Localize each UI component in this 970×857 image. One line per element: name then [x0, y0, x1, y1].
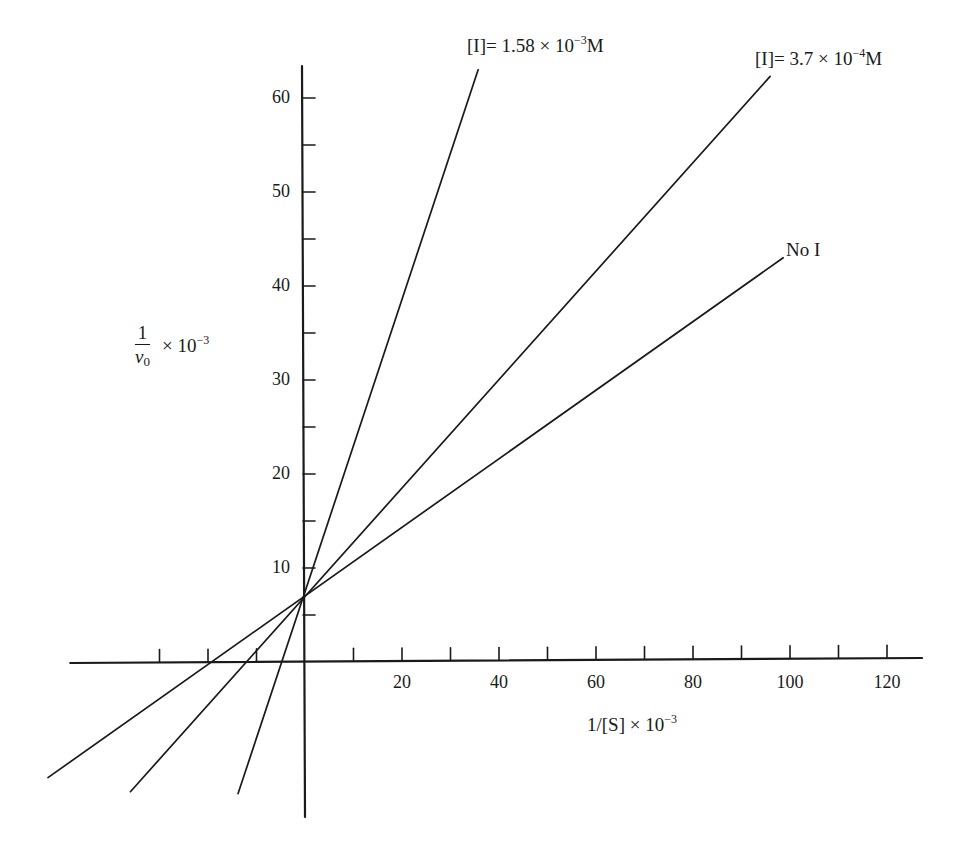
x-tick-label: 120 — [874, 673, 901, 691]
line-no-inhibitor — [48, 258, 783, 778]
y-tick-label: 10 — [272, 558, 290, 576]
axes — [70, 66, 922, 817]
y-tick-label: 40 — [272, 276, 290, 294]
series-label-no-inhibitor: No I — [786, 240, 820, 259]
axis-ticks — [160, 98, 888, 661]
line-inhibitor-1-58e-3 — [238, 70, 478, 794]
x-tick-label: 20 — [393, 673, 411, 691]
series-label-1-58e-3: [I]= 1.58 × 10−3M — [467, 34, 604, 55]
x-tick-label: 100 — [777, 673, 804, 691]
y-tick-label: 30 — [272, 370, 290, 388]
x-tick-label: 80 — [684, 673, 702, 691]
data-lines — [48, 70, 783, 794]
lineweaver-burk-plot — [0, 0, 970, 857]
x-axis-label: 1/[S] × 10−3 — [587, 713, 677, 734]
y-axis-label-fraction: 1 v0 — [135, 323, 150, 368]
y-tick-label: 60 — [272, 88, 290, 106]
y-axis-label-multiplier: × 10−3 — [162, 334, 209, 355]
y-tick-label: 50 — [272, 182, 290, 200]
y-axis-line — [302, 66, 305, 817]
line-inhibitor-3-7e-4 — [130, 76, 770, 791]
y-tick-label: 20 — [272, 464, 290, 482]
series-label-3-7e-4: [I]= 3.7 × 10−4M — [755, 47, 882, 68]
x-tick-label: 40 — [490, 673, 508, 691]
x-tick-label: 60 — [587, 673, 605, 691]
x-axis-line — [70, 658, 922, 663]
